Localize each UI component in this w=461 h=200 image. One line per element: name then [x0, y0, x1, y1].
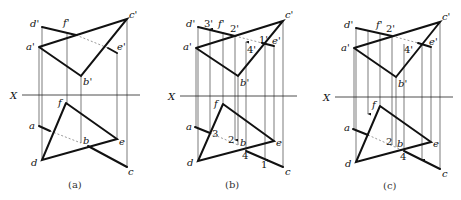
- projection-diagram: X d' f' c' a' e' b' f a: [0, 0, 461, 200]
- label-c-prime: c': [129, 9, 137, 20]
- caption-a: (a): [68, 179, 82, 190]
- label-2: 2: [386, 136, 392, 147]
- front-view: [354, 22, 440, 77]
- caption-c: (c): [383, 180, 397, 191]
- label-d: d: [31, 157, 37, 168]
- label-d-prime: d': [186, 18, 195, 29]
- label-3: 3: [212, 128, 218, 139]
- label-2-prime: 2': [230, 23, 239, 34]
- label-2: 2: [228, 134, 234, 145]
- label-b-prime: b': [398, 78, 407, 89]
- label-1: 1: [261, 159, 267, 170]
- axis-label: X: [167, 91, 176, 102]
- top-view: [195, 104, 283, 167]
- panel-b: X d' 3' f' 2' c' a': [167, 9, 297, 190]
- panel-a: X d' f' c' a' e' b' f a: [9, 9, 140, 190]
- label-a-prime: a': [26, 41, 35, 52]
- axis-label: X: [322, 92, 331, 103]
- label-4-prime: 4': [404, 44, 413, 55]
- label-c: c: [442, 168, 448, 179]
- label-4-prime: 4': [247, 44, 256, 55]
- label-d-prime: d': [30, 18, 39, 29]
- label-f: f: [213, 98, 220, 109]
- label-f: f: [371, 99, 378, 110]
- label-e: e: [276, 137, 282, 148]
- label-a: a: [29, 120, 35, 131]
- label-4: 4: [242, 150, 248, 161]
- caption-b: (b): [225, 179, 239, 190]
- label-c: c: [128, 166, 134, 177]
- label-a: a: [186, 121, 192, 132]
- front-view: [196, 21, 283, 76]
- label-b: b: [83, 135, 89, 146]
- label-d: d: [187, 157, 193, 168]
- label-d: d: [345, 158, 351, 169]
- front-view: [39, 19, 127, 76]
- label-b-prime: b': [83, 76, 92, 87]
- label-a: a: [344, 122, 350, 133]
- label-c: c: [285, 166, 291, 177]
- label-e-prime: e': [429, 36, 438, 47]
- axis-label: X: [9, 90, 18, 101]
- label-f: f: [57, 97, 64, 108]
- label-a-prime: a': [183, 41, 192, 52]
- panel-c: X d' f' 2' c' a' 4': [322, 11, 453, 191]
- label-e: e: [433, 138, 439, 149]
- label-c-prime: c': [442, 11, 450, 22]
- label-3-prime: 3': [204, 18, 213, 29]
- label-b: b: [397, 138, 403, 149]
- label-d-prime: d': [344, 19, 353, 30]
- label-c-prime: c': [285, 9, 293, 20]
- label-a-prime: a': [341, 42, 350, 53]
- label-e-prime: e': [272, 35, 281, 46]
- label-4: 4: [400, 151, 406, 162]
- label-1-prime: 1': [259, 34, 268, 45]
- label-f-prime: f': [62, 17, 69, 28]
- label-b: b: [240, 137, 246, 148]
- label-e: e: [119, 136, 125, 147]
- label-b-prime: b': [240, 77, 249, 88]
- label-e-prime: e': [117, 41, 126, 52]
- label-2-prime: 2': [386, 23, 395, 34]
- label-f-prime: f': [217, 18, 224, 29]
- label-f-prime: f': [375, 19, 382, 30]
